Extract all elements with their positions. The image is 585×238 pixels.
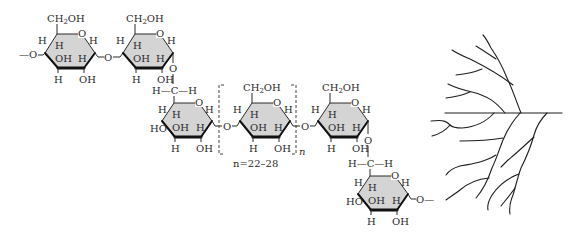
- chain-oxygen-right: O—: [416, 194, 434, 205]
- h-c2-up: H: [78, 53, 87, 64]
- tree-branch-upper-2: [452, 50, 513, 85]
- h-c5-down: H: [133, 40, 142, 51]
- h-c4-up: H: [116, 35, 125, 46]
- tree-branch-upper-twig-2: [456, 69, 482, 75]
- h-c3-down: H: [327, 143, 336, 154]
- ch2oh-label: CH2OH: [47, 13, 85, 26]
- glycosidic-bond-3-4b: [232, 121, 240, 126]
- h-c3-down: H: [171, 143, 180, 154]
- glucose-ring-4: O CH2OH H H H OH H H OH O: [233, 82, 318, 154]
- h-c3-down: H: [367, 216, 376, 227]
- glycosidic-bond-4-5b: [310, 121, 318, 126]
- h-c4-up: H: [311, 104, 320, 115]
- h-c5-down: H: [250, 109, 259, 120]
- h-c4-up: H: [38, 35, 47, 46]
- glycosidic-bond-4-5a: [290, 121, 300, 126]
- h-c-h-methylene: H—C—H: [152, 85, 197, 96]
- h-c4-up: H: [158, 104, 167, 115]
- glucose-ring-1: O CH2OH H H H OH H H OH —O O: [19, 13, 123, 85]
- h-c1-up: H: [401, 177, 410, 188]
- h-c1-up: H: [205, 104, 214, 115]
- h-c4-up: H: [354, 177, 363, 188]
- h-c4-up: H: [233, 104, 242, 115]
- bracket-left: [219, 85, 224, 154]
- glucose-ring-6: O H H H HO OH H H OH O—: [346, 170, 434, 227]
- ch2oh-label: CH2OH: [243, 82, 281, 95]
- glucose-ring-5: O CH2OH H H H OH H H OH O H—C—H: [311, 82, 393, 176]
- h-c3-down: H: [132, 74, 141, 85]
- h-c2-up: H: [196, 122, 205, 133]
- ch2oh-label: CH2OH: [126, 13, 164, 26]
- repeat-count-label: n=22–28: [233, 158, 278, 169]
- glycosidic-oxygen-4: O: [301, 121, 309, 132]
- tree-branch-upper-twig-3: [446, 92, 470, 98]
- ring-oxygen: O: [391, 170, 399, 181]
- h-c1-up: H: [284, 104, 293, 115]
- ch2oh-label: CH2OH: [322, 82, 360, 95]
- h-c2-up: H: [352, 122, 361, 133]
- oh-c3-up: OH: [55, 53, 72, 64]
- chain-oxygen-left: —O: [19, 49, 37, 60]
- bracket-right: [291, 85, 296, 154]
- glycosidic-oxygen-3: O: [223, 121, 231, 132]
- oh-c2-down: OH: [157, 74, 174, 85]
- h-c5-down: H: [55, 40, 64, 51]
- oh-c3-up: OH: [368, 195, 385, 206]
- oh-c2-down: OH: [196, 143, 213, 154]
- oh-c2-down: OH: [274, 143, 291, 154]
- tree-branch-lower-right: [510, 113, 547, 214]
- glycosidic-bond-3-4a: [212, 121, 222, 126]
- h-c3-down: H: [249, 143, 258, 154]
- h-c5-down: H: [368, 182, 377, 193]
- tree-branch-upper-twig-1: [476, 46, 496, 59]
- tree-branch-lower-twig-1: [460, 138, 503, 141]
- h-c1-up: H: [362, 104, 371, 115]
- glycosidic-bond-left: [38, 53, 45, 55]
- glucose-ring-2: O CH2OH H H H OH H H OH O H—C—H: [116, 13, 197, 103]
- tree-branch-upper-main: [483, 35, 521, 113]
- structure-canvas: O CH2OH H H H OH H H OH —O O: [0, 0, 585, 238]
- h-c5-down: H: [328, 109, 337, 120]
- amylopectin-structure-figure: O CH2OH H H H OH H H OH —O O: [0, 0, 585, 238]
- h-c-h-methylene: H—C—H: [348, 158, 393, 169]
- tree-branch-lower-twig-2: [446, 155, 496, 175]
- ho-c4-down: HO: [346, 196, 363, 207]
- oh-c3-up: OH: [172, 122, 189, 133]
- h-c2-up: H: [392, 195, 401, 206]
- glucose-ring-3: O H H H HO OH H H OH O: [150, 97, 240, 154]
- ring-oxygen: O: [78, 28, 86, 39]
- h-c1-up: H: [89, 35, 98, 46]
- ring-oxygen: O: [273, 97, 281, 108]
- tree-branch-lower-right-twig-1: [501, 137, 534, 167]
- oh-c3-up: OH: [133, 53, 150, 64]
- repeat-n-subscript: n: [299, 146, 305, 157]
- tree-branch-lower-1a: [431, 120, 450, 125]
- ho-c4-down: HO: [150, 123, 167, 134]
- oh-c3-up: OH: [328, 122, 345, 133]
- tree-branch-lower-1: [450, 113, 494, 128]
- oh-c2-down: OH: [392, 216, 409, 227]
- tree-branch-upper-3: [448, 84, 505, 113]
- ring-oxygen: O: [156, 28, 164, 39]
- oh-c3-up: OH: [250, 122, 267, 133]
- glycosidic-oxygen-1: O: [104, 52, 112, 63]
- glycosidic-bond-1-4a: [95, 53, 104, 57]
- h-c2-up: H: [156, 53, 165, 64]
- glycosidic-oxygen-branch: O: [364, 135, 372, 146]
- tree-branch-lower-right-twig-3: [501, 188, 515, 206]
- oh-c2-down: OH: [79, 74, 96, 85]
- ring-oxygen: O: [351, 97, 359, 108]
- h-c5-down: H: [172, 109, 181, 120]
- branching-tree-schematic: [431, 35, 562, 214]
- ring-oxygen: O: [195, 97, 203, 108]
- h-c2-up: H: [274, 122, 283, 133]
- h-c3-down: H: [54, 74, 63, 85]
- tree-branch-lower-1b: [432, 125, 450, 136]
- glycosidic-bond-1-4b: [113, 53, 123, 57]
- h-c1-up: H: [167, 35, 176, 46]
- glycosidic-oxygen-branch: O: [169, 63, 177, 74]
- glycosidic-bond-right: [408, 194, 416, 199]
